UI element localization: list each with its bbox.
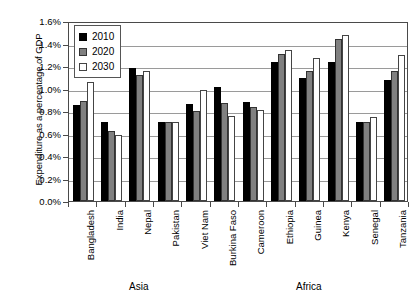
bar xyxy=(313,58,320,201)
bar xyxy=(129,68,136,201)
bar xyxy=(193,111,200,201)
bar xyxy=(80,101,87,201)
bar-group xyxy=(214,23,235,201)
legend-label: 2020 xyxy=(92,47,114,57)
x-tick-mark xyxy=(351,202,352,207)
x-tick-mark xyxy=(408,202,409,207)
x-tick-mark xyxy=(68,202,69,207)
x-category-label: Guinea xyxy=(313,210,323,241)
bar xyxy=(73,105,80,201)
bar xyxy=(172,122,179,201)
x-category-label: Nepal xyxy=(143,210,153,235)
legend-item: 2010 xyxy=(79,29,114,44)
x-category-label: Pakistan xyxy=(171,210,181,246)
legend-label: 2030 xyxy=(92,62,114,72)
x-category-label: Kenya xyxy=(341,210,351,237)
bar xyxy=(328,62,335,202)
bar xyxy=(143,71,150,202)
x-tick-mark xyxy=(380,202,381,207)
bar xyxy=(250,107,257,202)
x-category-label: Ethiopia xyxy=(285,210,295,244)
bar xyxy=(158,122,165,201)
y-tick-label: 1.4% xyxy=(15,40,61,50)
x-category-label: Cameroon xyxy=(256,210,266,254)
x-category-label: Bangladesh xyxy=(86,210,96,260)
bar xyxy=(200,90,207,201)
bar xyxy=(101,122,108,201)
bar xyxy=(363,122,370,201)
y-tick-label: 1.6% xyxy=(15,17,61,27)
y-tick-label: 0.4% xyxy=(15,152,61,162)
bar xyxy=(356,122,363,201)
legend-swatch-icon xyxy=(79,33,87,41)
legend-swatch-icon xyxy=(79,63,87,71)
bar-group xyxy=(356,23,377,201)
x-tick-mark xyxy=(323,202,324,207)
bar-group xyxy=(384,23,405,201)
bar xyxy=(221,103,228,201)
y-tick-label: 0.8% xyxy=(15,107,61,117)
bar xyxy=(228,116,235,202)
x-category-label: Tanzania xyxy=(398,210,408,248)
y-tick-label: 1.0% xyxy=(15,85,61,95)
bar-group xyxy=(271,23,292,201)
bar xyxy=(165,122,172,201)
bar xyxy=(398,55,405,201)
y-tick-label: 1.2% xyxy=(15,62,61,72)
bar xyxy=(278,54,285,201)
x-tick-mark xyxy=(96,202,97,207)
region-label: Asia xyxy=(68,281,210,292)
bar xyxy=(257,110,264,201)
legend-swatch-icon xyxy=(79,48,87,56)
bar xyxy=(115,135,122,201)
legend: 201020202030 xyxy=(74,25,121,78)
bar xyxy=(391,71,398,202)
bar xyxy=(214,87,221,201)
bar xyxy=(108,131,115,201)
bar-group xyxy=(328,23,349,201)
bar xyxy=(186,104,193,201)
x-category-label: Burkina Faso xyxy=(228,210,238,266)
y-tick-label: 0.6% xyxy=(15,130,61,140)
x-category-label: Viet Nam xyxy=(200,210,210,249)
region-label: Africa xyxy=(210,281,408,292)
y-tick-label: 0.0% xyxy=(15,197,61,207)
bar xyxy=(342,35,349,202)
bar-group xyxy=(158,23,179,201)
bar xyxy=(335,39,342,201)
legend-item: 2020 xyxy=(79,44,114,59)
x-tick-mark xyxy=(181,202,182,207)
x-category-label: Senegal xyxy=(370,210,380,245)
bar xyxy=(87,82,94,201)
bar xyxy=(271,62,278,202)
bar xyxy=(370,117,377,201)
legend-label: 2010 xyxy=(92,32,114,42)
x-tick-mark xyxy=(295,202,296,207)
bar-group xyxy=(186,23,207,201)
x-category-label: India xyxy=(115,210,125,231)
bar-group xyxy=(129,23,150,201)
x-tick-mark xyxy=(238,202,239,207)
bar xyxy=(243,102,250,201)
x-tick-mark xyxy=(266,202,267,207)
bar xyxy=(306,71,313,202)
legend-item: 2030 xyxy=(79,59,114,74)
bar-chart: Expenditure as a percentage of GDP 1.6%1… xyxy=(0,0,419,306)
x-tick-mark xyxy=(210,202,211,207)
bar xyxy=(285,50,292,201)
x-tick-mark xyxy=(153,202,154,207)
x-tick-mark xyxy=(125,202,126,207)
bar xyxy=(384,80,391,202)
bar xyxy=(299,78,306,201)
y-tick-label: 0.2% xyxy=(15,175,61,185)
bar-group xyxy=(299,23,320,201)
bar-group xyxy=(243,23,264,201)
bar xyxy=(136,75,143,201)
